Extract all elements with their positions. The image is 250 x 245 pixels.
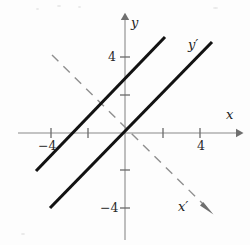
x-axis-arrowhead [236,129,244,137]
x-axis-label: x [226,108,233,121]
coordinate-plot-figure: −4 4 4 −4 y x y′ x′ [0,0,250,245]
y-axis-arrowhead [121,13,129,20]
x-tick-label-pos-4: 4 [197,140,205,153]
lower-solid-line [50,42,212,208]
y-axis-label: y [131,16,138,29]
y-prime-axis-label: y′ [188,38,198,51]
x-prime-arrowhead [200,202,214,215]
y-tick-label-neg-4: −4 [100,202,118,215]
y-tick-label-pos-4: 4 [108,51,116,64]
x-tick-label-neg-4: −4 [38,140,56,153]
x-prime-axis-label: x′ [178,200,188,213]
plot-canvas [0,0,250,245]
